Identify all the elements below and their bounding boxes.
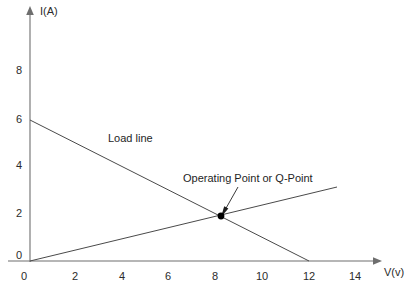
- y-axis: [26, 6, 34, 262]
- x-axis-title: V(v): [384, 266, 404, 278]
- y-tick-label-8: 8: [16, 64, 22, 76]
- y-tick-label-6: 6: [16, 113, 22, 125]
- x-tick-label-10: 10: [256, 270, 268, 282]
- y-axis-title: I(A): [40, 5, 58, 17]
- y-tick-label-2: 2: [16, 207, 22, 219]
- y-tick-label-0: 0: [16, 249, 22, 261]
- x-tick-label-12: 12: [303, 270, 315, 282]
- chart-figure: I(A) V(v) 8 6 4 2 0 0 2 4 6 8 10 12 14 L…: [0, 0, 418, 296]
- x-axis: [8, 257, 382, 265]
- series-load-line: [30, 120, 309, 261]
- x-tick-label-14: 14: [349, 270, 361, 282]
- q-point-leader-line: [225, 187, 238, 210]
- x-tick-label-6: 6: [165, 270, 171, 282]
- x-tick-label-2: 2: [72, 270, 78, 282]
- operating-point-label: Operating Point or Q-Point: [183, 172, 313, 184]
- load-line-label: Load line: [108, 132, 153, 144]
- x-tick-label-0: 0: [21, 270, 27, 282]
- x-tick-label-4: 4: [119, 270, 125, 282]
- x-axis-arrow-icon: [373, 257, 382, 265]
- y-tick-label-4: 4: [16, 159, 22, 171]
- x-tick-label-8: 8: [212, 270, 218, 282]
- y-axis-arrow-icon: [26, 6, 34, 15]
- q-point-marker: [218, 213, 225, 220]
- load-line-chart: I(A) V(v) 8 6 4 2 0 0 2 4 6 8 10 12 14 L…: [0, 0, 418, 296]
